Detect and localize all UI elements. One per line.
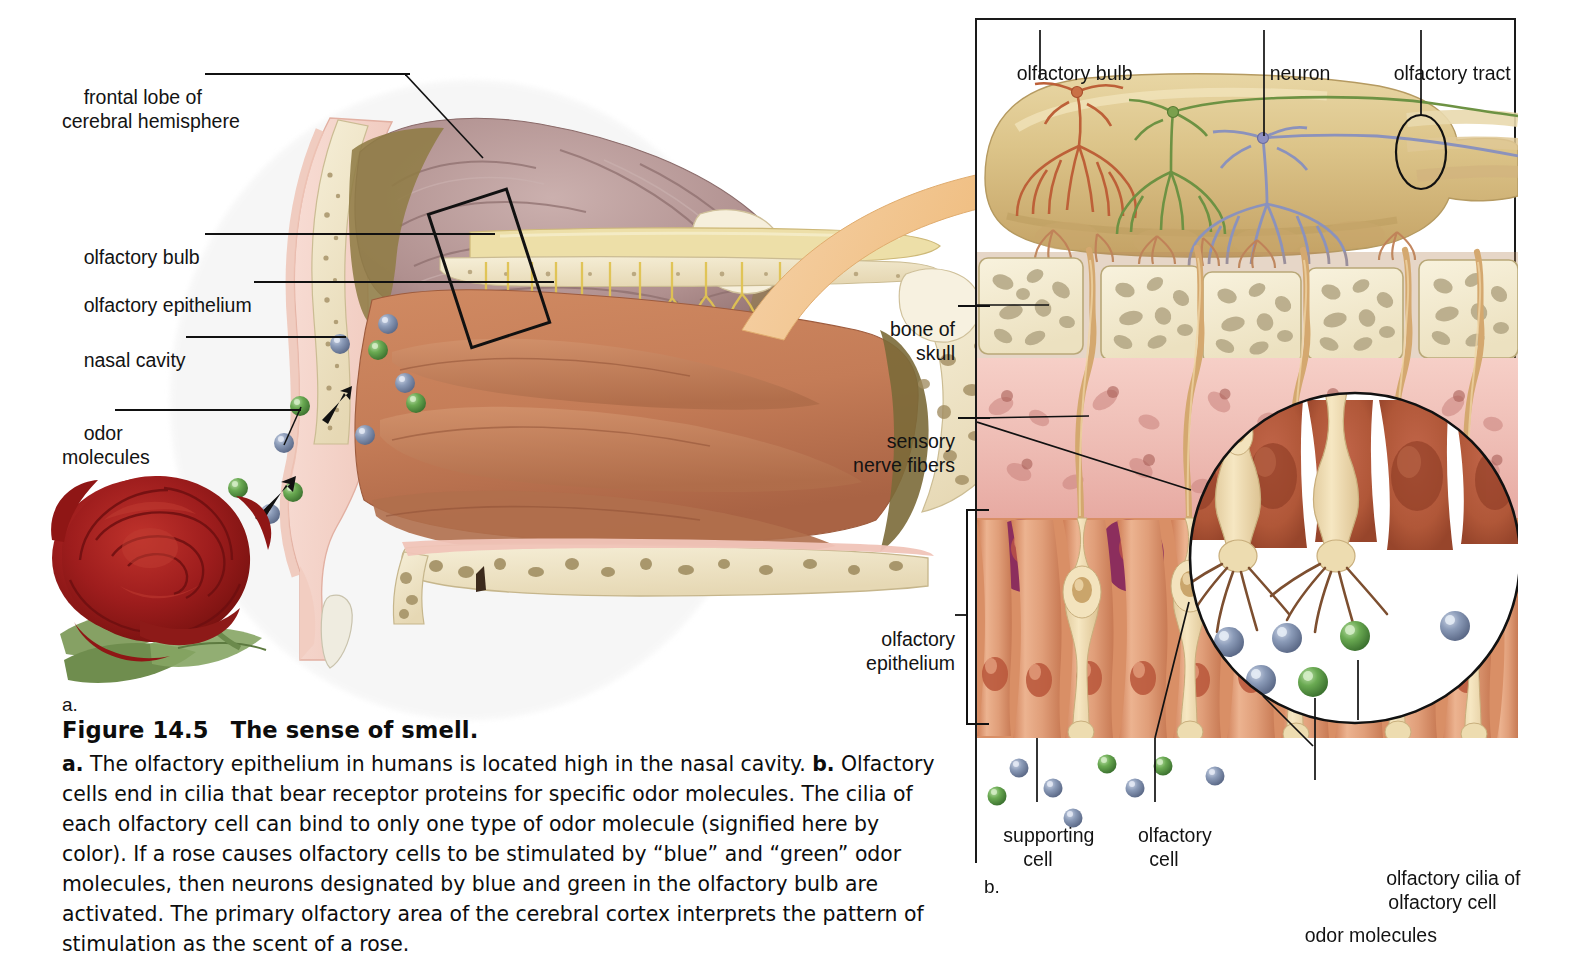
label-frontal-lobe: frontal lobe of cerebral hemisphere bbox=[62, 62, 240, 157]
panel-a-letter: a. bbox=[62, 694, 78, 716]
leader-olfactory-bulb-a bbox=[205, 233, 495, 235]
leader-bone-of-skull bbox=[958, 305, 990, 307]
label-nasal-cavity: nasal cavity bbox=[62, 325, 186, 396]
leader-sensory-nerve-fibers bbox=[958, 417, 990, 419]
label-sensory-nerve-fibers: sensory nerve fibers bbox=[780, 406, 955, 501]
figure-number: Figure 14.5 bbox=[62, 717, 209, 743]
bracket-olfactory-epithelium bbox=[955, 508, 991, 726]
panel-b-letter: b. bbox=[984, 876, 1000, 898]
figure-14-5: frontal lobe of cerebral hemisphere olfa… bbox=[0, 0, 1569, 969]
label-neuron: neuron bbox=[1248, 38, 1330, 109]
label-bone-of-skull: bone of skull bbox=[790, 294, 955, 389]
label-odor-molecules-a: odor molecules bbox=[62, 398, 150, 493]
leader-olfactory-epithelium-a bbox=[254, 281, 554, 283]
caption-a-tag: a. bbox=[62, 752, 84, 776]
caption-body: a. The olfactory epithelium in humans is… bbox=[62, 750, 946, 960]
caption-b-tag: b. bbox=[812, 752, 834, 776]
leader-frontal-lobe bbox=[205, 73, 410, 75]
label-olfactory-bulb-b: olfactory bulb bbox=[995, 38, 1133, 109]
cribriform-bone-blocks bbox=[979, 258, 1518, 364]
leader-frontal-lobe-angled bbox=[405, 70, 495, 170]
leader-odor-molecules-a-fork bbox=[255, 405, 315, 455]
label-olfactory-epithelium-b: olfactory epithelium bbox=[790, 604, 955, 699]
figure-caption: Figure 14.5The sense of smell. a. The ol… bbox=[62, 714, 946, 960]
caption-a-text: The olfactory epithelium in humans is lo… bbox=[84, 752, 813, 776]
panel-b-illustration bbox=[977, 20, 1518, 865]
leader-nasal-cavity bbox=[186, 336, 346, 338]
figure-title: The sense of smell. bbox=[209, 717, 479, 743]
caption-b-text: Olfactory cells end in cilia that bear r… bbox=[62, 752, 934, 956]
label-olfactory-cell: olfactory cell bbox=[1098, 800, 1230, 895]
figure-heading: Figure 14.5The sense of smell. bbox=[62, 714, 946, 747]
label-olfactory-tract: olfactory tract bbox=[1372, 38, 1511, 109]
label-odor-molecules-b: odor molecules bbox=[1283, 900, 1437, 969]
